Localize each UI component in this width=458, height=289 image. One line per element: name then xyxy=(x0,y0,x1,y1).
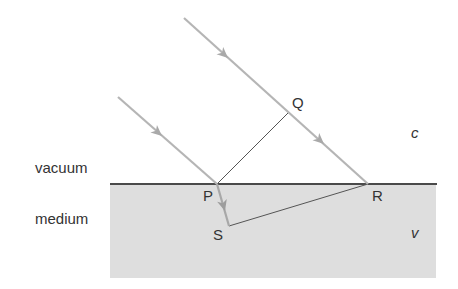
speed-label-c: c xyxy=(411,125,419,140)
point-label-Q: Q xyxy=(292,95,304,110)
point-label-S: S xyxy=(213,227,223,242)
region-label-vacuum: vacuum xyxy=(35,160,88,175)
point-label-R: R xyxy=(372,188,383,203)
speed-label-v: v xyxy=(411,225,419,240)
incident-ray-upper xyxy=(184,18,368,184)
medium-region xyxy=(110,184,436,278)
incident-ray-lower xyxy=(118,97,217,184)
wavefront-PQ xyxy=(217,112,289,184)
point-label-P: P xyxy=(203,188,213,203)
region-label-medium: medium xyxy=(35,211,88,226)
refraction-diagram xyxy=(0,0,458,289)
